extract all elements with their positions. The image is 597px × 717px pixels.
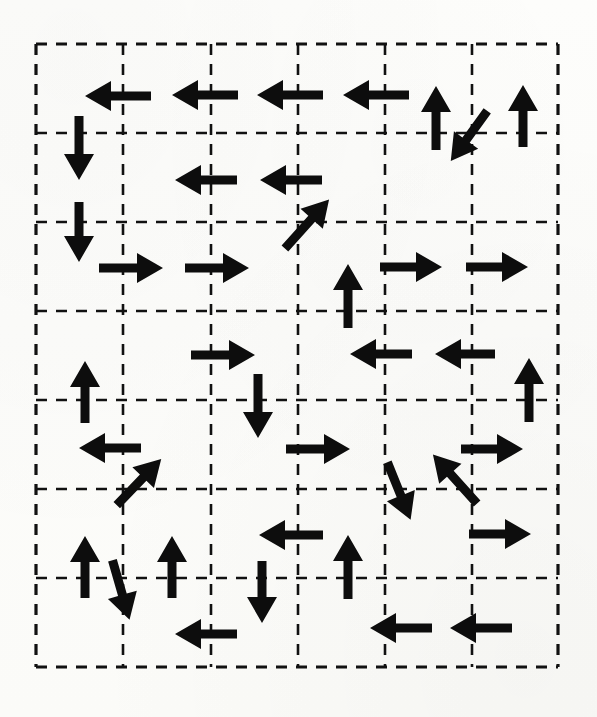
- arrow-a25: right: [286, 434, 350, 464]
- arrow-a12: up-right diagonal: [274, 189, 340, 258]
- arrow-a17: right: [466, 252, 528, 282]
- arrow-a04: left: [343, 80, 409, 110]
- arrow-a03: left: [257, 80, 323, 110]
- arrow-a26: right: [461, 434, 523, 464]
- arrow-a07: up: [508, 85, 538, 147]
- arrow-a23: down: [243, 374, 273, 438]
- arrow-a37: left: [175, 619, 237, 649]
- arrow-a13: right: [99, 253, 163, 283]
- arrow-a11: down: [64, 202, 94, 262]
- arrow-a36: down: [247, 561, 277, 623]
- arrow-a15: up: [333, 264, 363, 328]
- arrow-a08: down: [64, 116, 94, 180]
- arrow-a06: down-left diagonal: [439, 102, 500, 170]
- arrow-a38: left: [370, 613, 432, 643]
- arrow-a39: left: [450, 613, 512, 643]
- vector-field-figure: leftleftleftleftupdown-left diagonalupdo…: [0, 0, 597, 717]
- arrow-a34: up: [333, 535, 363, 599]
- arrow-a31: right: [469, 519, 531, 549]
- arrow-a29: up-left diagonal: [422, 444, 488, 513]
- arrow-a02: left: [172, 80, 238, 110]
- arrow-a24: left: [79, 433, 141, 463]
- arrow-a21: up: [70, 361, 100, 423]
- vector-field-canvas: leftleftleftleftupdown-left diagonalupdo…: [0, 0, 597, 717]
- arrow-a30: left: [259, 520, 323, 550]
- arrow-a19: left: [350, 339, 412, 369]
- arrow-a10: left: [260, 165, 322, 195]
- arrow-a33: up: [157, 536, 187, 598]
- arrow-a18: right: [191, 340, 255, 370]
- arrow-a22: up: [514, 358, 544, 422]
- arrow-a35: down-left-ish diagonal: [98, 556, 144, 624]
- arrow-a05: up: [421, 86, 451, 150]
- arrow-a28: down-right diagonal: [373, 457, 424, 526]
- arrow-a16: right: [380, 252, 442, 282]
- arrow-a32: up: [70, 536, 100, 598]
- arrow-a20: left: [435, 339, 495, 369]
- arrow-a27: up-right diagonal: [106, 449, 172, 516]
- arrow-a01: left: [85, 81, 151, 111]
- arrow-a09: left: [175, 165, 237, 195]
- arrow-a14: right: [185, 253, 249, 283]
